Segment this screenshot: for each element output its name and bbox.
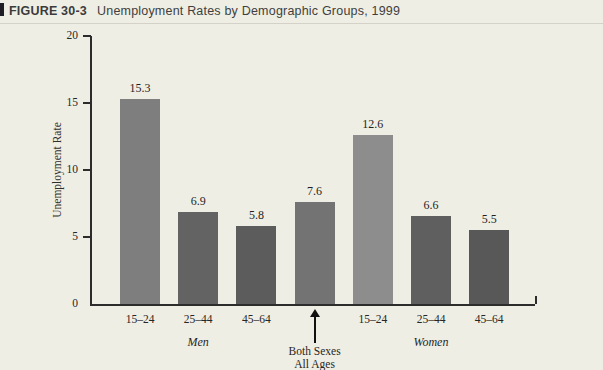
bar-1 bbox=[120, 99, 160, 304]
y-axis-tick bbox=[83, 102, 91, 104]
figure-page: FIGURE 30-3 Unemployment Rates by Demogr… bbox=[0, 0, 603, 370]
figure-title: Unemployment Rates by Demographic Groups… bbox=[97, 4, 400, 18]
bar-7 bbox=[469, 230, 509, 304]
x-axis-category-label: 45–64 bbox=[226, 313, 286, 325]
annotation-text: All Ages bbox=[270, 358, 360, 370]
x-axis-category-label: 15–24 bbox=[110, 313, 170, 325]
figure-number-label: FIGURE 30-3 bbox=[9, 4, 87, 18]
group-label-men: Men bbox=[158, 335, 238, 350]
bar-value-label: 7.6 bbox=[285, 184, 345, 199]
y-axis-tick bbox=[83, 236, 91, 238]
bar-value-label: 15.3 bbox=[110, 81, 170, 96]
x-axis-endcap bbox=[535, 296, 537, 304]
corner-square-decoration bbox=[0, 3, 4, 16]
y-axis-tick bbox=[83, 169, 91, 171]
y-tick-label: 15 bbox=[52, 96, 78, 108]
annotation-arrow-icon bbox=[314, 316, 316, 343]
bar-value-label: 6.6 bbox=[401, 198, 461, 213]
bar-2 bbox=[178, 212, 218, 304]
y-tick-label: 0 bbox=[52, 297, 78, 309]
y-tick-label: 5 bbox=[52, 230, 78, 242]
bar-5 bbox=[353, 135, 393, 304]
y-axis-tick bbox=[83, 35, 91, 37]
bar-3 bbox=[236, 226, 276, 304]
bar-value-label: 6.9 bbox=[168, 194, 228, 209]
bar-chart: Unemployment Rate 0510152015.315–246.925… bbox=[0, 23, 603, 370]
x-axis-category-label: 15–24 bbox=[343, 313, 403, 325]
plot-area: 0510152015.315–246.925–445.845–647.612.6… bbox=[90, 36, 535, 306]
bar-value-label: 5.5 bbox=[459, 212, 519, 227]
y-tick-label: 20 bbox=[52, 29, 78, 41]
bar-value-label: 12.6 bbox=[343, 117, 403, 132]
x-axis-category-label: 25–44 bbox=[168, 313, 228, 325]
group-label-women: Women bbox=[391, 335, 471, 350]
x-axis-category-label: 45–64 bbox=[459, 313, 519, 325]
bar-6 bbox=[411, 216, 451, 304]
bar-4 bbox=[295, 202, 335, 304]
x-axis-category-label: 25–44 bbox=[401, 313, 461, 325]
bar-value-label: 5.8 bbox=[226, 208, 286, 223]
y-tick-label: 10 bbox=[52, 163, 78, 175]
figure-header: FIGURE 30-3 Unemployment Rates by Demogr… bbox=[0, 0, 603, 24]
annotation-text: Both Sexes bbox=[270, 345, 360, 357]
